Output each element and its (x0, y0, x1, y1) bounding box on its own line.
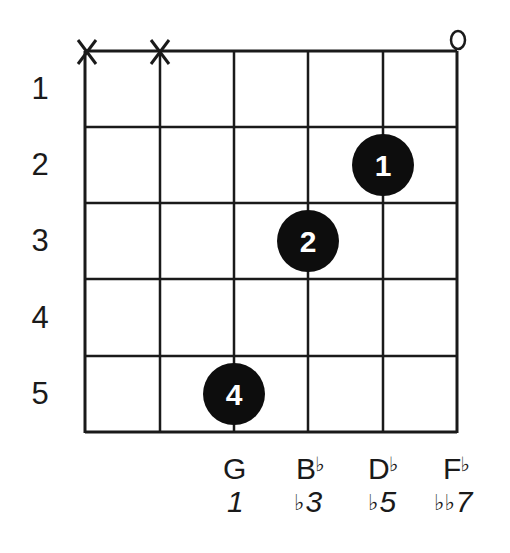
open-string-o-icon (451, 31, 465, 49)
fret-number: 5 (20, 378, 60, 409)
finger-number: 4 (226, 378, 243, 411)
finger-number: 2 (300, 225, 317, 258)
interval-label: 1 (226, 487, 244, 518)
accidental: ♭ (389, 452, 398, 476)
interval-label: ♭5 (368, 487, 396, 518)
interval-degree: 1 (227, 485, 244, 518)
fret-number: 3 (20, 225, 60, 256)
note-letter: G (223, 452, 246, 485)
interval-degree: 5 (379, 485, 396, 518)
fretboard-grid: 1 2 4 (0, 0, 510, 553)
accidental: ♭ (315, 452, 324, 476)
note-letter: F (443, 452, 461, 485)
finger-dot: 4 (203, 363, 265, 425)
note-letter: B (296, 452, 316, 485)
finger-dot: 1 (352, 134, 414, 196)
accidental: ♭ (368, 490, 378, 515)
finger-number: 1 (375, 149, 392, 182)
interval-degree: 7 (456, 485, 473, 518)
interval-degree: 3 (305, 485, 322, 518)
note-letter: D (368, 452, 390, 485)
accidental: ♭♭ (434, 490, 455, 515)
accidental: ♭ (294, 490, 304, 515)
interval-label: ♭♭7 (434, 487, 472, 518)
finger-dot: 2 (277, 210, 339, 272)
accidental: ♭ (460, 452, 469, 476)
note-name: F♭ (443, 449, 470, 484)
fret-number: 4 (20, 302, 60, 333)
fret-number: 1 (20, 73, 60, 104)
chord-diagram: 1 2 4 1 2 3 4 5 G B♭ D♭ F♭ 1 ♭3 ♭5 ♭♭7 (0, 0, 510, 553)
fret-number: 2 (20, 149, 60, 180)
interval-label: ♭3 (294, 487, 322, 518)
note-name: D♭ (368, 449, 398, 484)
note-name: B♭ (296, 449, 324, 484)
note-name: G (223, 449, 245, 484)
